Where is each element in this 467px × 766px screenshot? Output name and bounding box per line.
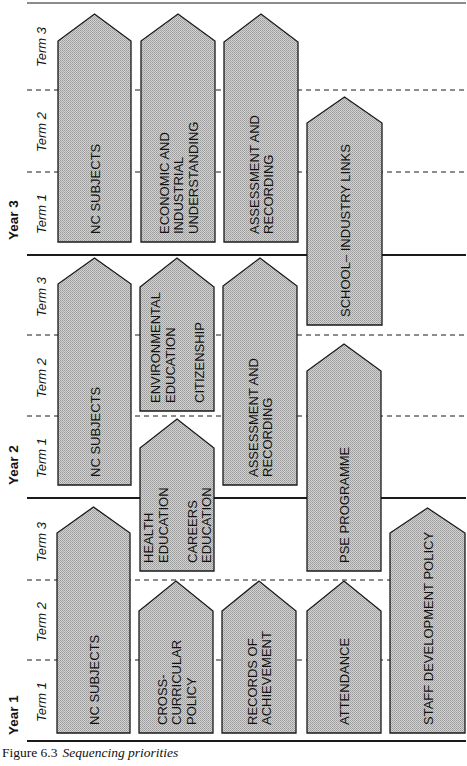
- year-label: Year 2: [6, 445, 21, 485]
- figure-number: Figure 6.3: [2, 745, 58, 760]
- box-label: ENVIRONMENTAL: [148, 292, 163, 403]
- term-label: Term 2: [34, 111, 49, 152]
- term-label: Term 1: [34, 682, 49, 722]
- priority-boxes: NC SUBJECTSECONOMIC ANDINDUSTRIALUNDERST…: [57, 14, 465, 733]
- term-label: Term 2: [34, 601, 49, 642]
- term-label: Term 3: [34, 26, 49, 67]
- sequencing-diagram: NC SUBJECTSECONOMIC ANDINDUSTRIALUNDERST…: [0, 0, 467, 766]
- box-label: CITIZENSHIP: [192, 322, 207, 403]
- box-label: NC SUBJECTS: [87, 634, 102, 725]
- box-label: EDUCATION: [199, 487, 214, 563]
- box-label: ASSESSMENT AND: [246, 358, 261, 477]
- box-label: STAFF DEVELOPMENT POLICY: [421, 532, 436, 725]
- term-label: Term 3: [34, 276, 49, 317]
- box-staff-development-policy: STAFF DEVELOPMENT POLICY: [390, 508, 465, 733]
- box-label: CAREERS: [185, 500, 200, 563]
- box-label: INDUSTRIAL: [171, 157, 186, 234]
- box-label: CURRICULAR: [169, 640, 184, 725]
- box-label: SCHOOL– INDUSTRY LINKS: [338, 144, 353, 317]
- box-label: RECORDING: [260, 398, 275, 477]
- box-label: ATTENDANCE: [337, 638, 352, 725]
- term-label: Term 3: [34, 521, 49, 562]
- box-y3-economic-industrial: ECONOMIC ANDINDUSTRIALUNDERSTANDING: [141, 14, 215, 242]
- box-label: NC SUBJECTS: [88, 386, 103, 477]
- box-label: ECONOMIC AND: [157, 132, 172, 234]
- box-y2-nc-subjects: NC SUBJECTS: [58, 258, 131, 485]
- box-y1-nc-subjects: NC SUBJECTS: [57, 507, 130, 733]
- box-label: NC SUBJECTS: [88, 143, 103, 234]
- year-label: Year 1: [6, 695, 21, 735]
- box-label: RECORDING: [261, 155, 276, 234]
- box-label: ACHIEVEMENT: [259, 631, 274, 725]
- box-label: UNDERSTANDING: [186, 122, 201, 234]
- box-y2-assessment: ASSESSMENT ANDRECORDING: [223, 258, 297, 485]
- year-label: Year 3: [6, 200, 21, 240]
- term-label: Term 2: [34, 357, 49, 398]
- term-label: Term 1: [34, 194, 49, 234]
- box-label: PSE PROGRAMME: [337, 446, 352, 563]
- box-health-careers: HEALTHEDUCATIONCAREERSEDUCATION: [140, 419, 214, 571]
- box-pse-programme: PSE PROGRAMME: [307, 344, 381, 571]
- term-label: Term 1: [34, 438, 49, 478]
- box-label: RECORDS OF: [245, 638, 260, 725]
- box-label: HEALTH: [141, 513, 156, 563]
- figure-title: Sequencing priorities: [63, 745, 179, 760]
- box-attendance: ATTENDANCE: [307, 581, 381, 733]
- box-label: POLICY: [184, 677, 199, 725]
- box-label: EDUCATION: [156, 487, 171, 563]
- box-records-of-achievement: RECORDS OFACHIEVEMENT: [222, 581, 296, 733]
- box-label: ASSESSMENT AND: [247, 115, 262, 234]
- box-y3-nc-subjects: NC SUBJECTS: [58, 14, 131, 242]
- box-environmental-citizenship: ENVIRONMENTALEDUCATIONCITIZENSHIP: [140, 258, 214, 411]
- axis-labels: Term 3Term 2Term 1Term 3Term 2Term 1Term…: [6, 26, 49, 735]
- figure-caption: Figure 6.3Sequencing priorities: [2, 745, 178, 761]
- box-y3-assessment: ASSESSMENT ANDRECORDING: [224, 14, 298, 242]
- box-label: EDUCATION: [163, 327, 178, 403]
- box-cross-curricular-policy: CROSS-CURRICULARPOLICY: [139, 581, 213, 733]
- box-school-industry-links: SCHOOL– INDUSTRY LINKS: [307, 97, 382, 325]
- box-label: CROSS-: [155, 674, 170, 725]
